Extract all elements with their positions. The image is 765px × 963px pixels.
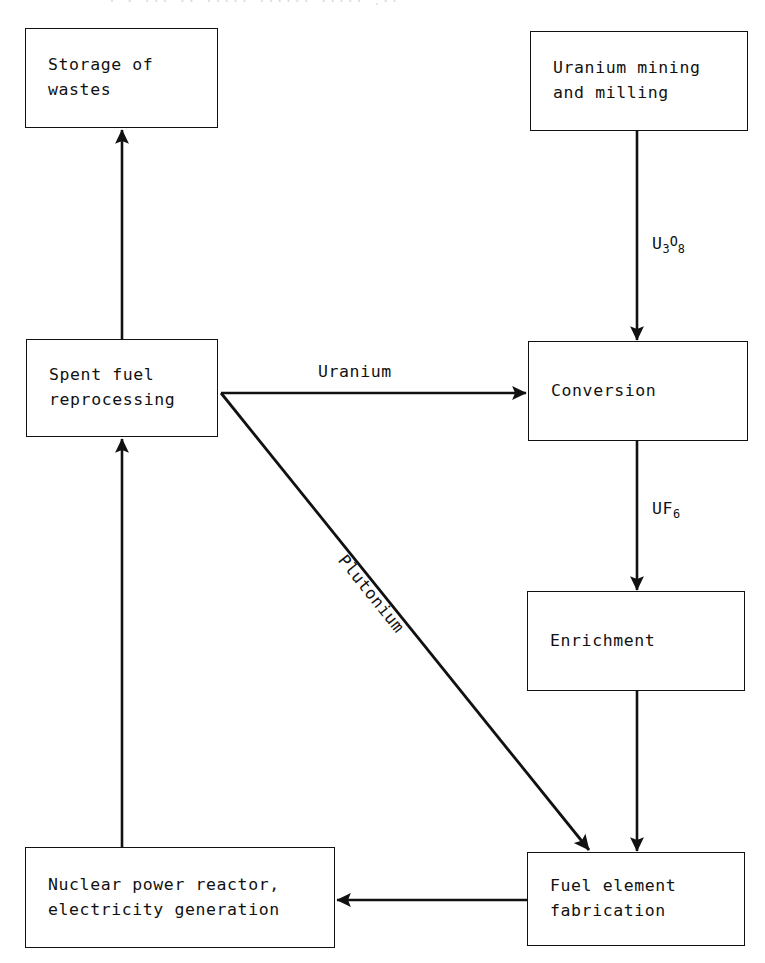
node-spent-fuel-reprocessing-label: Spent fuel reprocessing [27,363,175,413]
node-spent-fuel-reprocessing[interactable]: Spent fuel reprocessing [26,339,218,437]
node-fuel-element-fabrication[interactable]: Fuel element fabrication [527,852,745,946]
node-nuclear-power-reactor[interactable]: Nuclear power reactor, electricity gener… [25,847,335,948]
cropped-title-remnant: · · ··· ·· ····· ······ ····· ,·· [108,0,708,5]
connector-layer [0,0,765,963]
fuel-cycle-diagram: · · ··· ·· ····· ······ ····· ,·· Storag… [0,0,765,963]
edge-label-uf6: UF6 [652,499,680,521]
node-fuel-element-fabrication-label: Fuel element fabrication [528,874,676,924]
edge-label-uranium: Uranium [318,362,392,381]
node-storage-of-wastes[interactable]: Storage of wastes [25,28,218,128]
edge-label-plutonium: Plutonium [334,551,408,637]
node-storage-of-wastes-label: Storage of wastes [26,53,153,103]
node-uranium-mining-and-milling[interactable]: Uranium mining and milling [530,31,748,131]
u3o8-o: O [670,233,678,249]
node-enrichment[interactable]: Enrichment [527,591,745,691]
node-conversion-label: Conversion [529,379,656,404]
node-enrichment-label: Enrichment [528,629,655,654]
node-conversion[interactable]: Conversion [528,341,748,441]
uf6-sub-6: 6 [673,507,680,521]
uf6-element: UF [652,499,673,518]
node-uranium-mining-and-milling-label: Uranium mining and milling [531,56,700,106]
node-nuclear-power-reactor-label: Nuclear power reactor, electricity gener… [26,873,280,923]
u3o8-sub-8: 8 [678,242,685,256]
u3o8-element: U [652,234,663,253]
u3o8-sub-3: 3 [663,242,670,256]
edge-label-u3o8: U3O8 [652,233,685,256]
